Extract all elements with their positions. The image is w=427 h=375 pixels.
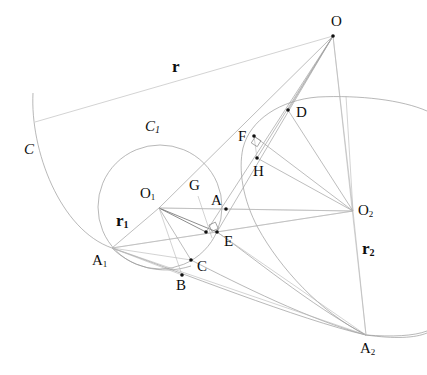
point-label-H: H xyxy=(253,164,264,179)
vertex-dot-D xyxy=(286,108,290,112)
segment-O2-A2 xyxy=(353,211,366,335)
point-label-A: A xyxy=(211,193,222,208)
right-angle-ra-F xyxy=(251,137,261,147)
segment-O-E xyxy=(217,36,333,232)
segment-E-A2 xyxy=(217,232,366,335)
vertex-dot-H xyxy=(255,156,259,160)
segment-O-O1 xyxy=(159,36,333,208)
radius-label-r: r xyxy=(172,58,180,75)
segment-E-O2 xyxy=(217,211,353,232)
vertex-dot-E2 xyxy=(204,230,208,234)
point-label-O1: O1 xyxy=(140,186,155,201)
point-label-A2: A2 xyxy=(360,341,375,356)
vertex-dot-E xyxy=(215,230,219,234)
segment-F-H xyxy=(254,136,257,158)
point-label-B: B xyxy=(176,278,186,293)
segments-group xyxy=(35,36,366,335)
vertex-dot-C xyxy=(189,258,193,262)
point-label-O2: O2 xyxy=(358,203,373,218)
point-label-G: G xyxy=(189,178,200,193)
curve-arc_inner_low xyxy=(191,260,366,335)
ra-E-square xyxy=(209,222,218,231)
point-label-E: E xyxy=(224,234,233,249)
radius-label-r2: r2 xyxy=(362,240,375,257)
segment-A-O2 xyxy=(226,209,353,211)
point-label-D: D xyxy=(296,105,307,120)
segment-A1-C xyxy=(112,248,191,260)
curve-arc_C_right_tail xyxy=(366,331,427,336)
point-label-A1: A1 xyxy=(92,253,107,268)
segment-H-O2 xyxy=(257,158,353,211)
vertex-dot-O xyxy=(331,34,335,38)
vertex-dot-F xyxy=(252,134,256,138)
segment-F-O2 xyxy=(254,136,353,211)
ra-F-square xyxy=(251,137,261,147)
segment-O1-E xyxy=(159,208,217,232)
curve-arc_C2_top xyxy=(243,97,427,148)
vertex-dot-A xyxy=(224,207,228,211)
geometry-figure: ODFHO1GAO2EA1CBA2CC1rr1r2 xyxy=(0,0,427,375)
radius-label-r1: r1 xyxy=(116,212,129,229)
curve-label-C: C xyxy=(24,142,34,157)
curve-label-C1: C1 xyxy=(145,119,160,134)
point-label-F: F xyxy=(238,129,246,144)
segment-O1-A xyxy=(159,208,226,209)
geometry-canvas xyxy=(0,0,427,375)
segment-O2-vert-top xyxy=(346,96,353,211)
segment-A1-A2 xyxy=(112,248,366,335)
point-label-O: O xyxy=(331,14,342,29)
segment-A1-B xyxy=(112,248,182,275)
right-angle-ra-E xyxy=(209,222,218,231)
segment-O-E2 xyxy=(206,36,333,232)
point-label-C: C xyxy=(197,259,207,274)
